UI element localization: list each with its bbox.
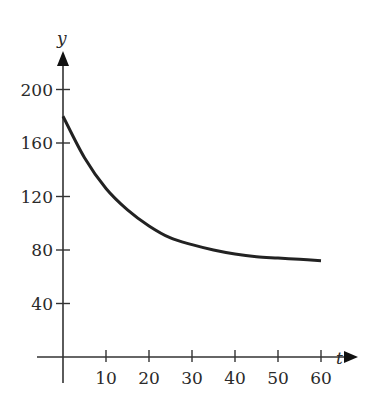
y-axis-label: y (56, 28, 67, 48)
x-tick-label: 20 (138, 368, 160, 388)
x-axis-label: t (336, 348, 343, 368)
y-axis-arrow-icon (57, 51, 69, 66)
chart: 1020304050604080120160200 t y (0, 0, 374, 410)
y-tick-label: 160 (21, 133, 53, 153)
data-curve (63, 116, 321, 260)
x-tick-label: 30 (181, 368, 203, 388)
y-tick-label: 80 (31, 240, 53, 260)
y-tick-label: 120 (21, 187, 53, 207)
x-tick-label: 50 (267, 368, 289, 388)
x-tick-label: 40 (224, 368, 246, 388)
x-tick-label: 60 (310, 368, 332, 388)
x-tick-label: 10 (95, 368, 117, 388)
y-tick-label: 200 (21, 80, 53, 100)
axes (37, 51, 358, 383)
y-tick-label: 40 (31, 294, 53, 314)
x-axis-arrow-icon (344, 351, 358, 363)
